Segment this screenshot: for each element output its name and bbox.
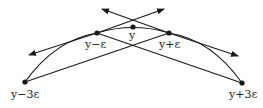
label-y-minus-eps: y−ε: [85, 39, 106, 50]
label-y: y: [129, 30, 135, 41]
point-y-plus-3eps: [239, 80, 244, 85]
label-y-plus-eps: y+ε: [159, 39, 180, 50]
diagram-svg: [0, 0, 263, 108]
point-y-minus-3eps: [22, 79, 27, 84]
point-y-minus-eps: [94, 30, 99, 35]
label-y-plus-3eps: y+3ε: [229, 89, 257, 100]
label-y-minus-3eps: y−3ε: [11, 89, 39, 100]
diagram-canvas: y−3ε y−ε y y+ε y+3ε: [0, 0, 263, 108]
point-y-plus-eps: [166, 30, 171, 35]
